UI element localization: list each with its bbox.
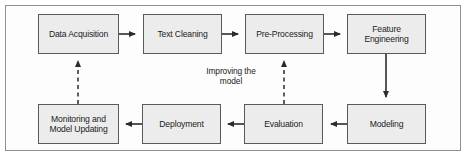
node-feature-engineering[interactable]: Feature Engineering	[347, 14, 426, 54]
node-monitoring-and-model-updating[interactable]: Monitoring and Model Updating	[38, 104, 119, 144]
node-data-acquisition-label: Data Acquisition	[49, 29, 108, 40]
node-evaluation-label: Evaluation	[264, 119, 303, 130]
pipeline-flowchart: Data Acquisition Text Cleaning Pre-Proce…	[0, 0, 470, 158]
node-monitoring-and-model-updating-label: Monitoring and Model Updating	[49, 114, 107, 135]
node-modeling[interactable]: Modeling	[347, 104, 426, 144]
node-evaluation[interactable]: Evaluation	[244, 104, 323, 144]
node-text-cleaning-label: Text Cleaning	[157, 29, 207, 40]
node-pre-processing[interactable]: Pre-Processing	[245, 14, 324, 54]
node-deployment[interactable]: Deployment	[142, 104, 221, 144]
node-deployment-label: Deployment	[159, 119, 203, 130]
node-text-cleaning[interactable]: Text Cleaning	[143, 14, 222, 54]
node-pre-processing-label: Pre-Processing	[256, 29, 313, 40]
node-modeling-label: Modeling	[370, 119, 404, 130]
node-feature-engineering-label: Feature Engineering	[364, 24, 408, 45]
edge-label-improving-the-model: Improving the model	[196, 66, 266, 86]
node-data-acquisition[interactable]: Data Acquisition	[38, 14, 119, 54]
